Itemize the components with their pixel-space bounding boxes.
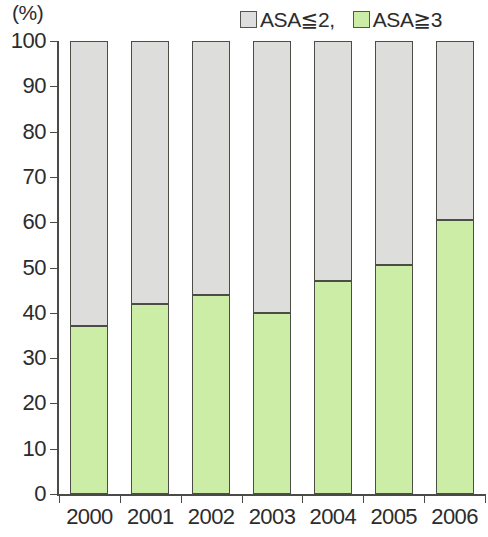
legend-label-asa-ge3: ASA≧3: [373, 9, 442, 30]
x-axis-tick-label: 2006: [431, 506, 478, 528]
x-axis-tick: [363, 494, 364, 503]
x-axis-tick-label: 2003: [249, 506, 296, 528]
bar-2000: [70, 41, 108, 494]
y-axis-tick: [50, 132, 59, 133]
bar-segment-asa-ge3: [314, 281, 352, 494]
y-axis-tick-label: 80: [23, 121, 46, 143]
bar-segment-asa-le2: [131, 41, 169, 304]
bar-2001: [131, 41, 169, 494]
x-axis-tick-label: 2004: [310, 506, 357, 528]
y-axis-tick: [50, 222, 59, 223]
x-axis-tick: [485, 494, 486, 503]
legend-entry-asa-le2: ASA≦2,: [240, 9, 335, 30]
bar-segment-asa-le2: [192, 41, 230, 295]
y-axis-unit-label: (%): [12, 2, 43, 23]
y-axis-tick: [50, 313, 59, 314]
x-axis-tick-label: 2005: [370, 506, 417, 528]
y-axis-tick: [50, 268, 59, 269]
bar-segment-asa-le2: [70, 41, 108, 326]
y-axis-tick-label: 30: [23, 347, 46, 369]
y-axis-tick-label: 0: [34, 483, 46, 505]
x-axis-tick: [424, 494, 425, 503]
y-axis-tick-label: 100: [11, 30, 46, 52]
bar-segment-asa-le2: [436, 41, 474, 220]
stacked-bar-chart: ASA≦2, ASA≧3 (%) 01020304050607080901002…: [0, 0, 488, 537]
y-axis-tick: [50, 449, 59, 450]
legend-swatch-gray-icon: [240, 11, 257, 28]
y-axis-tick-label: 90: [23, 75, 46, 97]
bar-segment-asa-ge3: [70, 326, 108, 494]
bar-segment-asa-ge3: [192, 295, 230, 494]
y-axis-tick-label: 40: [23, 302, 46, 324]
legend-swatch-green-icon: [353, 11, 370, 28]
y-axis-tick: [50, 358, 59, 359]
x-axis-tick: [242, 494, 243, 503]
bar-segment-asa-le2: [314, 41, 352, 281]
x-axis-tick: [181, 494, 182, 503]
bar-segment-asa-le2: [375, 41, 413, 265]
bar-2006: [436, 41, 474, 494]
y-axis-tick: [50, 177, 59, 178]
legend-label-asa-le2: ASA≦2,: [260, 9, 335, 30]
bar-2002: [192, 41, 230, 494]
bar-segment-asa-ge3: [253, 313, 291, 494]
bar-segment-asa-ge3: [436, 220, 474, 494]
bar-segment-asa-le2: [253, 41, 291, 313]
bar-2003: [253, 41, 291, 494]
y-axis-tick-label: 10: [23, 438, 46, 460]
y-axis-tick: [50, 494, 59, 495]
bar-2004: [314, 41, 352, 494]
bar-segment-asa-ge3: [375, 265, 413, 494]
x-axis-tick-label: 2000: [66, 506, 113, 528]
y-axis-tick-label: 70: [23, 166, 46, 188]
bar-2005: [375, 41, 413, 494]
y-axis-tick: [50, 403, 59, 404]
x-axis-tick-label: 2001: [127, 506, 174, 528]
x-axis-tick: [59, 494, 60, 503]
plot-area: 0102030405060708090100200020012002200320…: [57, 41, 485, 496]
bar-segment-asa-ge3: [131, 304, 169, 494]
x-axis-tick: [120, 494, 121, 503]
x-axis-tick-label: 2002: [188, 506, 235, 528]
x-axis-tick: [302, 494, 303, 503]
legend-entry-asa-ge3: ASA≧3: [353, 9, 442, 30]
chart-legend: ASA≦2, ASA≧3: [240, 6, 442, 32]
y-axis-tick: [50, 41, 59, 42]
y-axis-tick-label: 20: [23, 392, 46, 414]
y-axis-tick-label: 60: [23, 211, 46, 233]
y-axis-tick-label: 50: [23, 257, 46, 279]
y-axis-tick: [50, 86, 59, 87]
